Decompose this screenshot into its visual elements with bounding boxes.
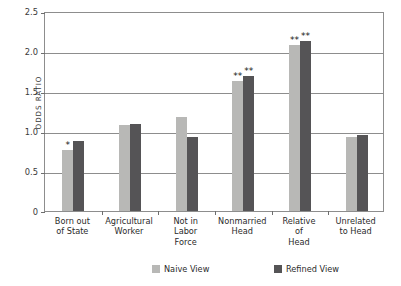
x-axis-category-label: AgriculturalWorker — [101, 216, 158, 237]
y-axis-tick-mark — [41, 93, 45, 94]
bar-refined — [187, 137, 198, 211]
y-axis-tick-mark — [41, 53, 45, 54]
x-axis-category-label-line: Agricultural — [101, 216, 158, 226]
y-axis-tick-label: 2.0 — [8, 47, 38, 57]
legend-item: Naive View — [152, 264, 209, 274]
x-axis-category-label-line: Born out — [44, 216, 101, 226]
gridline — [45, 173, 383, 174]
x-axis-category-label: RelativeofHead — [271, 216, 328, 247]
bar-naive — [289, 45, 300, 211]
y-axis-tick-mark — [41, 133, 45, 134]
x-axis-category-label-line: Nonmarried — [214, 216, 271, 226]
x-axis-tick-mark — [215, 211, 216, 215]
y-axis-tick-label: 1.0 — [8, 127, 38, 137]
x-axis-tick-mark — [102, 211, 103, 215]
x-axis-category-label: Unrelatedto Head — [327, 216, 384, 237]
bar-refined — [73, 141, 84, 211]
x-axis-category-label: Not inLaborForce — [157, 216, 214, 247]
x-axis-category-label-line: Unrelated — [327, 216, 384, 226]
significance-marker: ** — [300, 32, 311, 41]
x-axis-category-label-line: Head — [271, 237, 328, 247]
y-axis-title: ODDS RATIO — [34, 43, 43, 163]
x-axis-tick-mark — [328, 211, 329, 215]
legend-swatch-icon — [274, 265, 282, 273]
bar-refined — [130, 124, 141, 211]
x-axis-category-label-line: Head — [214, 226, 271, 236]
x-axis-category-label-line: Relative — [271, 216, 328, 226]
bar-naive — [232, 81, 243, 211]
x-axis-tick-mark — [158, 211, 159, 215]
x-axis-category-label-line: to Head — [327, 226, 384, 236]
bar-naive — [62, 150, 73, 211]
plot-inner: ********* — [45, 13, 383, 211]
y-axis-tick-mark — [41, 13, 45, 14]
x-axis-category-label: NonmarriedHead — [214, 216, 271, 237]
bar-refined — [243, 76, 254, 211]
gridline — [45, 93, 383, 94]
gridline — [45, 53, 383, 54]
significance-marker: ** — [289, 36, 300, 45]
chart-figure: ODDS RATIO 00.51.01.52.02.5 ********* Bo… — [0, 0, 401, 286]
x-axis-category-label-line: Labor — [157, 226, 214, 236]
chart-legend: Naive ViewRefined View — [44, 264, 384, 278]
bar-naive — [176, 117, 187, 211]
y-axis-tick-label: 1.5 — [8, 87, 38, 97]
bar-naive — [346, 137, 357, 211]
plot-area: ********* — [44, 12, 384, 212]
y-axis-tick-mark — [41, 173, 45, 174]
legend-item: Refined View — [274, 264, 339, 274]
legend-swatch-icon — [152, 265, 160, 273]
significance-marker: * — [62, 141, 73, 150]
y-axis-tick-label: 0.5 — [8, 167, 38, 177]
legend-label: Refined View — [286, 264, 339, 274]
significance-marker: ** — [232, 72, 243, 81]
y-axis-tick-label: 0 — [8, 207, 38, 217]
y-axis-tick-mark — [41, 212, 45, 213]
x-axis-tick-mark — [272, 211, 273, 215]
gridline — [45, 133, 383, 134]
bar-refined — [357, 135, 368, 211]
x-axis-category-label-line: Worker — [101, 226, 158, 236]
bar-refined — [300, 41, 311, 211]
bar-naive — [119, 125, 130, 211]
x-axis-category-label-line: of — [271, 226, 328, 236]
y-axis-tick-label: 2.5 — [8, 7, 38, 17]
x-axis-category-label-line: Not in — [157, 216, 214, 226]
x-axis-category-label: Born outof State — [44, 216, 101, 237]
x-axis-category-label-line: Force — [157, 237, 214, 247]
significance-marker: ** — [243, 67, 254, 76]
legend-label: Naive View — [164, 264, 209, 274]
x-axis-category-label-line: of State — [44, 226, 101, 236]
